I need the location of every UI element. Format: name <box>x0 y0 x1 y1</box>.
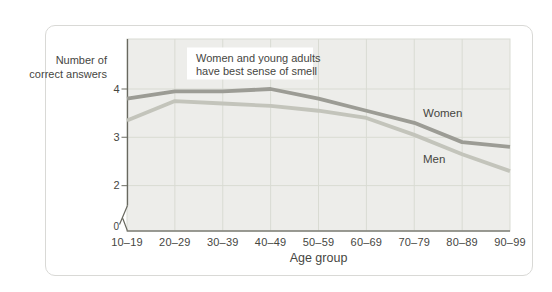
x-tick-label: 60–69 <box>351 236 383 248</box>
x-tick-labels: 10–1920–2930–3940–4950–5960–6970–7980–89… <box>111 236 526 248</box>
x-tick-label: 50–59 <box>303 236 335 248</box>
smell-test-figure: 4320 10–1920–2930–3940–4950–5960–6970–79… <box>0 0 552 292</box>
x-tick-label: 30–39 <box>207 236 239 248</box>
y-axis-title-line-2: correct answers <box>29 68 107 80</box>
y-tick-label: 2 <box>113 179 119 191</box>
x-axis-title: Age group <box>290 251 348 265</box>
annotation-line-2: have best sense of smell <box>196 65 317 77</box>
x-tick-label: 40–49 <box>255 236 287 248</box>
line-chart: 4320 10–1920–2930–3940–4950–5960–6970–79… <box>0 0 552 292</box>
y-tick-label: 0 <box>113 221 119 232</box>
x-tick-label: 10–19 <box>111 236 143 248</box>
y-axis-break-icon <box>120 206 128 232</box>
series-label-women: Women <box>423 107 462 119</box>
annotation-line-1: Women and young adults <box>196 52 321 64</box>
x-tick-label: 70–79 <box>398 236 430 248</box>
x-tick-label: 80–89 <box>446 236 478 248</box>
y-axis-title-line-1: Number of <box>56 54 108 66</box>
x-tick-label: 90–99 <box>494 236 526 248</box>
y-tick-label: 3 <box>113 131 119 143</box>
x-tick-label: 20–29 <box>159 236 191 248</box>
y-tick-labels: 4320 <box>113 83 119 232</box>
series-label-men: Men <box>423 153 445 165</box>
y-tick-label: 4 <box>113 83 119 95</box>
